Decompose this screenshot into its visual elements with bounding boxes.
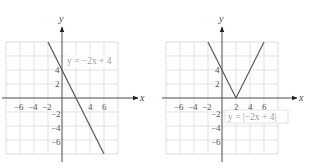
- left-xtick: −6: [14, 102, 24, 112]
- right-equation-label: y = |−2x + 4|: [228, 112, 276, 122]
- right-ytick: −6: [211, 137, 221, 147]
- left-xtick: 4: [88, 102, 93, 112]
- right-ytick: −2: [211, 109, 221, 119]
- left-ytick: −2: [51, 109, 61, 119]
- right-xtick: −4: [188, 102, 198, 112]
- left-ytick: 2: [55, 79, 60, 89]
- figure: x y −6 −4 −2 4 6 4 2 −2 −4 −6 y = −2x + …: [0, 0, 309, 168]
- right-xtick: −6: [174, 102, 184, 112]
- left-x-axis-label: x: [139, 92, 145, 103]
- right-graph: x y −6 −4 −2 2 4 6 4 2 −2 −4 −6 y = |−2x…: [162, 13, 304, 162]
- left-ytick: −4: [51, 123, 61, 133]
- left-xtick: −4: [28, 102, 38, 112]
- right-y-axis-label: y: [218, 13, 224, 24]
- left-graph: x y −6 −4 −2 4 6 4 2 −2 −4 −6 y = −2x + …: [2, 13, 145, 162]
- right-ytick: 2: [215, 79, 220, 89]
- right-ytick: 4: [215, 65, 220, 75]
- left-xtick: 6: [102, 102, 107, 112]
- right-x-axis-label: x: [298, 92, 304, 103]
- left-y-axis-label: y: [58, 13, 64, 24]
- left-ytick: 4: [55, 65, 60, 75]
- right-ytick: −4: [211, 123, 221, 133]
- left-equation-label: y = −2x + 4: [67, 56, 112, 66]
- left-ytick: −6: [51, 137, 61, 147]
